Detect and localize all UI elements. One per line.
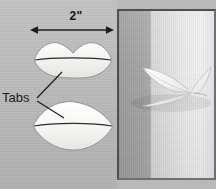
pattern-diagram-panel: 2"	[0, 0, 117, 189]
tabs-callout-label: Tabs	[2, 90, 29, 106]
tabs-leader-lines	[36, 68, 82, 122]
double-headed-arrow-icon	[30, 24, 114, 36]
finished-paper-moth-photo	[117, 9, 216, 180]
figure-root: 2"	[0, 0, 216, 189]
dimension-label: 2"	[56, 9, 96, 23]
paper-moth-figure	[119, 59, 216, 129]
